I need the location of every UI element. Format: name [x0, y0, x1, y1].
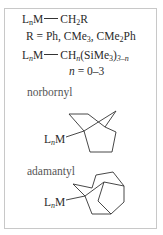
- adamantyl-structure-icon: [0, 0, 163, 235]
